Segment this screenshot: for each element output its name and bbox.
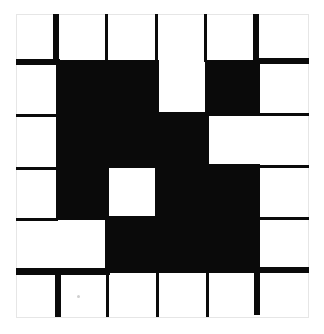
grid-cell-empty[interactable] <box>58 14 107 62</box>
grid-cell-empty[interactable] <box>107 271 157 318</box>
grid-cell-empty[interactable] <box>16 62 58 114</box>
grid-cell-empty[interactable] <box>107 14 157 62</box>
grid-puzzle-board <box>0 0 324 334</box>
grid-cell-empty[interactable] <box>157 14 207 62</box>
grid-cell-filled[interactable] <box>205 164 260 220</box>
grid-cell-filled[interactable] <box>155 216 209 273</box>
grid-line-vertical <box>106 268 109 317</box>
grid-cell-filled[interactable] <box>56 60 109 116</box>
grid-line-vertical <box>105 14 108 62</box>
grid-cell-empty[interactable] <box>16 271 58 318</box>
grid-line-vertical <box>206 268 209 317</box>
grid-cell-empty[interactable] <box>207 271 258 318</box>
grid-cell-empty[interactable] <box>258 14 309 62</box>
grid-cell-hole <box>109 168 155 216</box>
grid-line-vertical <box>156 268 159 317</box>
grid-cell-empty[interactable] <box>16 218 58 271</box>
grid-line-horizontal <box>256 58 309 64</box>
grid-cell-hole <box>60 220 105 269</box>
grid-cell-filled[interactable] <box>205 216 260 273</box>
grid-line-vertical <box>55 268 61 317</box>
grid-cell-empty[interactable] <box>258 114 309 166</box>
grid-cell-filled[interactable] <box>56 112 109 168</box>
grid-cell-filled[interactable] <box>105 216 159 273</box>
grid-line-horizontal <box>16 167 56 170</box>
grid-line-horizontal <box>16 59 60 65</box>
grid-cell-hole <box>209 116 256 164</box>
grid-cell-empty[interactable] <box>258 218 309 271</box>
grid-cell-filled[interactable] <box>155 164 209 220</box>
grid-line-horizontal <box>258 113 309 116</box>
grid-line-horizontal <box>16 114 56 117</box>
grid-cell-empty[interactable] <box>16 14 58 62</box>
grid-cell-empty[interactable] <box>16 114 58 166</box>
grid-cell-filled[interactable] <box>155 112 209 168</box>
scan-speck <box>77 295 80 298</box>
grid-cell-filled[interactable] <box>105 112 159 168</box>
grid-line-vertical <box>254 268 260 315</box>
grid-line-horizontal <box>258 267 309 273</box>
grid-cell-hole <box>159 64 205 112</box>
grid-line-horizontal <box>16 268 110 275</box>
grid-cell-empty[interactable] <box>207 14 258 62</box>
grid-cell-filled[interactable] <box>56 164 109 220</box>
grid-cell-empty[interactable] <box>258 271 309 318</box>
grid-line-vertical <box>53 14 59 62</box>
grid-cell-empty[interactable] <box>58 271 107 318</box>
grid-line-horizontal <box>258 165 309 168</box>
grid-cell-empty[interactable] <box>258 62 309 114</box>
grid-cell-filled[interactable] <box>205 60 260 116</box>
grid-line-horizontal <box>16 218 58 221</box>
grid-cell-empty[interactable] <box>16 166 58 218</box>
grid-line-vertical <box>253 14 259 62</box>
grid-line-horizontal <box>258 217 309 220</box>
grid-line-vertical <box>204 14 207 62</box>
grid-line-vertical <box>155 14 158 62</box>
grid-cell-empty[interactable] <box>258 166 309 218</box>
grid-cell-empty[interactable] <box>157 271 207 318</box>
grid-cell-filled[interactable] <box>105 60 159 116</box>
